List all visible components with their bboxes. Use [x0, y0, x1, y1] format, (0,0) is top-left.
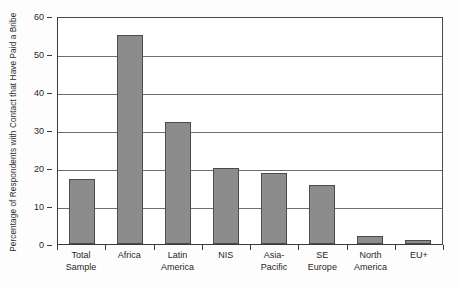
x-axis-tick-label: LatinAmerica	[154, 250, 202, 273]
x-axis-tick-label-line: Latin	[154, 250, 202, 262]
x-axis-tick-label-line: EU+	[395, 250, 443, 262]
bar	[165, 122, 191, 244]
bar-slot	[106, 18, 154, 244]
bar	[117, 35, 143, 244]
y-axis-tick-label: 0	[39, 240, 44, 250]
x-axis-tick-label-line: Asia-	[250, 250, 298, 262]
y-axis-tick-label: 60	[34, 12, 44, 22]
x-axis-tick-label: TotalSample	[57, 250, 105, 273]
y-axis-tick-labels: 0102030405060	[0, 17, 52, 245]
bar	[261, 173, 287, 244]
y-axis-tick-mark	[47, 207, 52, 208]
x-axis-tick-label-line: America	[347, 262, 395, 274]
x-axis-tick-label: Asia-Pacific	[250, 250, 298, 273]
bar	[309, 185, 335, 244]
x-axis-tick-label: EU+	[395, 250, 443, 273]
x-axis-tick-label-line: NIS	[202, 250, 250, 262]
x-axis-tick-label: NorthAmerica	[347, 250, 395, 273]
y-axis-tick-label: 40	[34, 88, 44, 98]
bar	[69, 179, 95, 244]
bar	[405, 240, 431, 244]
plot-area	[57, 17, 443, 245]
x-axis-tick-labels: TotalSampleAfricaLatinAmericaNISAsia-Pac…	[57, 250, 443, 273]
y-axis-tick-mark	[47, 93, 52, 94]
x-axis-tick-label-line: Sample	[57, 262, 105, 274]
x-axis-tick-label-line: Europe	[298, 262, 346, 274]
x-axis-tick-label-line: America	[154, 262, 202, 274]
y-axis-tick-label: 30	[34, 126, 44, 136]
y-axis-tick-label: 10	[34, 202, 44, 212]
bar-slot	[394, 18, 442, 244]
bar-series	[58, 18, 442, 244]
bar-slot	[154, 18, 202, 244]
bar-slot	[346, 18, 394, 244]
y-axis-tick-mark	[47, 55, 52, 56]
y-axis-tick-label: 20	[34, 164, 44, 174]
y-axis-tick-mark	[47, 131, 52, 132]
x-axis-tick-label-line: Africa	[105, 250, 153, 262]
bar-chart-figure: Percentage of Respondents with Contact t…	[0, 0, 459, 289]
y-axis-tick-mark	[47, 169, 52, 170]
y-axis-tick-mark	[47, 245, 52, 246]
bar	[213, 168, 239, 244]
x-axis-tick-label-line: Pacific	[250, 262, 298, 274]
x-axis-tick-label-line: Total	[57, 250, 105, 262]
bar-slot	[202, 18, 250, 244]
x-axis-tick-mark	[443, 245, 444, 250]
x-axis-tick-label: SEEurope	[298, 250, 346, 273]
bar-slot	[298, 18, 346, 244]
bar	[357, 236, 383, 244]
x-axis-tick-label-line: SE	[298, 250, 346, 262]
y-axis-tick-mark	[47, 17, 52, 18]
x-axis-tick-label: Africa	[105, 250, 153, 273]
bar-slot	[58, 18, 106, 244]
x-axis-tick-label-line: North	[347, 250, 395, 262]
y-axis-tick-label: 50	[34, 50, 44, 60]
bar-slot	[250, 18, 298, 244]
x-axis-tick-label: NIS	[202, 250, 250, 273]
